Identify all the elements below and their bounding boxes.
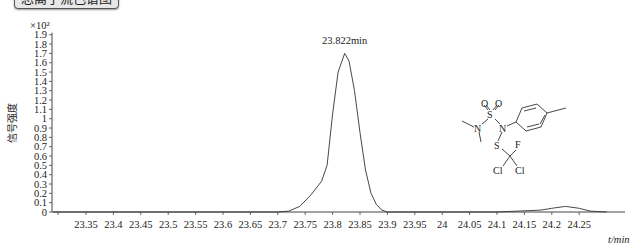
y-axis-label: 信号强度 — [6, 103, 18, 143]
x-tick-label: 23.85 — [348, 219, 372, 230]
x-tick-label: 24.15 — [513, 219, 537, 230]
y-tick-label: 1.9 — [34, 29, 47, 40]
svg-text:N: N — [499, 123, 506, 134]
svg-text:F: F — [515, 139, 521, 150]
tic-series — [53, 53, 607, 212]
svg-text:Cl: Cl — [493, 165, 503, 176]
x-tick-label: 23.9 — [378, 219, 396, 230]
x-tick-label: 24.05 — [458, 219, 482, 230]
x-axis-label: t/min — [608, 234, 630, 244]
x-tick-label: 23.5 — [159, 219, 177, 230]
x-tick-label: 23.4 — [104, 219, 123, 230]
x-tick-label: 24 — [437, 219, 448, 230]
peak-annotation: 23.822min — [322, 35, 368, 46]
y-multiplier: ×10² — [30, 20, 50, 31]
chemical-structure — [462, 104, 566, 166]
x-tick-label: 23.95 — [403, 219, 427, 230]
svg-text:N: N — [474, 123, 481, 134]
x-tick-label: 24.2 — [543, 219, 561, 230]
x-tick-label: 23.35 — [74, 219, 98, 230]
x-tick-label: 23.75 — [293, 219, 317, 230]
x-tick-label: 23.6 — [214, 219, 232, 230]
x-tick-label: 23.65 — [239, 219, 263, 230]
svg-text:O: O — [495, 98, 502, 109]
svg-text:S: S — [494, 140, 500, 151]
x-tick-label: 23.45 — [129, 219, 153, 230]
x-tick-label: 23.7 — [269, 219, 287, 230]
svg-text:O: O — [481, 98, 488, 109]
tic-line — [53, 53, 607, 212]
x-tick-label: 24.25 — [567, 219, 591, 230]
chromatogram-chart: 00.10.20.30.40.50.60.70.80.911.11.21.31.… — [0, 0, 641, 244]
x-tick-label: 23.55 — [184, 219, 208, 230]
x-tick-label: 24.1 — [488, 219, 506, 230]
x-tick-label: 23.8 — [323, 219, 341, 230]
svg-text:Cl: Cl — [515, 165, 525, 176]
svg-text:S: S — [487, 109, 493, 120]
